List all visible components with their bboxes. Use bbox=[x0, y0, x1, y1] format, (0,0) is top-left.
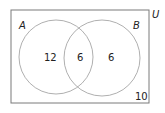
universe-label: U bbox=[152, 9, 160, 20]
a-only-value: 12 bbox=[44, 52, 57, 63]
set-b-circle bbox=[64, 20, 140, 96]
outside-value: 10 bbox=[135, 91, 148, 102]
set-a-label: A bbox=[18, 20, 26, 31]
intersection-value: 6 bbox=[77, 52, 83, 63]
b-only-value: 6 bbox=[108, 52, 114, 63]
set-b-label: B bbox=[133, 20, 140, 31]
venn-diagram: A B U 12 6 6 10 bbox=[0, 0, 165, 113]
